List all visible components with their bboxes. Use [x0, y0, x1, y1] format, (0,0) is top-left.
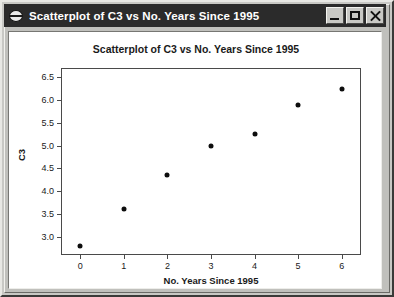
chart-canvas[interactable]: Scatterplot of C3 vs No. Years Since 199… [8, 31, 382, 289]
plot-area: 3.03.54.04.55.05.56.06.5 0123456 [61, 68, 361, 255]
x-tick-mark [255, 254, 256, 259]
x-tick-mark [167, 254, 168, 259]
data-point [339, 86, 344, 91]
application-window: Scatterplot of C3 vs No. Years Since 199… [0, 0, 394, 297]
x-tick-mark [342, 254, 343, 259]
x-tick-label: 0 [78, 261, 83, 271]
x-tick-label: 2 [165, 261, 170, 271]
data-point [296, 102, 301, 107]
x-tick-label: 1 [121, 261, 126, 271]
minimize-button[interactable] [326, 7, 344, 24]
chart-title: Scatterplot of C3 vs No. Years Since 199… [9, 43, 382, 55]
x-axis-title: No. Years Since 1995 [61, 275, 361, 286]
x-tick-label: 4 [252, 261, 257, 271]
data-points [62, 69, 360, 254]
window-controls [326, 7, 384, 24]
y-axis-title: C3 [16, 149, 27, 161]
title-bar[interactable]: Scatterplot of C3 vs No. Years Since 199… [4, 4, 386, 27]
y-tick-label: 3.0 [41, 232, 54, 242]
y-tick-label: 4.0 [41, 186, 54, 196]
data-point [121, 207, 126, 212]
data-point [209, 143, 214, 148]
maximize-icon [350, 11, 360, 20]
minimize-icon [330, 18, 339, 20]
x-tick-mark [298, 254, 299, 259]
data-point [252, 132, 257, 137]
y-tick-label: 3.5 [41, 209, 54, 219]
close-button[interactable] [366, 7, 384, 24]
y-tick-label: 6.5 [41, 72, 54, 82]
y-tick-label: 5.0 [41, 141, 54, 151]
data-point [165, 173, 170, 178]
data-point [78, 243, 83, 248]
y-tick-label: 5.5 [41, 118, 54, 128]
y-tick-label: 6.0 [41, 95, 54, 105]
maximize-button[interactable] [346, 7, 364, 24]
y-tick-label: 4.5 [41, 163, 54, 173]
x-tick-label: 3 [208, 261, 213, 271]
x-tick-mark [80, 254, 81, 259]
minitab-disc-icon [9, 9, 23, 23]
x-tick-mark [124, 254, 125, 259]
x-tick-label: 5 [296, 261, 301, 271]
window-title: Scatterplot of C3 vs No. Years Since 199… [29, 10, 326, 22]
x-tick-mark [211, 254, 212, 259]
x-tick-label: 6 [339, 261, 344, 271]
